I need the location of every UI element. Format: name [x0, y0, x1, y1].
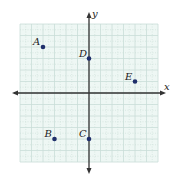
point-label: A [32, 36, 40, 47]
y-axis-arrow-down-icon [87, 168, 92, 174]
point-marker [41, 45, 46, 50]
point-marker [133, 79, 138, 84]
point-marker [87, 137, 92, 142]
point-label: D [78, 48, 87, 59]
point-label: B [44, 128, 52, 139]
point-marker [87, 56, 92, 61]
point-label: E [124, 71, 133, 82]
x-axis-label: x [164, 81, 170, 92]
y-axis-label: y [91, 8, 98, 19]
coordinate-plane: xy ABCDE [0, 0, 174, 176]
x-axis-arrow-left-icon [12, 91, 18, 96]
point-label: C [79, 128, 87, 139]
y-axis-arrow-up-icon [87, 12, 92, 18]
point-marker [52, 137, 57, 142]
